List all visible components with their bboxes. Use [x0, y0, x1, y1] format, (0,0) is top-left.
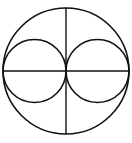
- geometry-diagram: [0, 0, 132, 143]
